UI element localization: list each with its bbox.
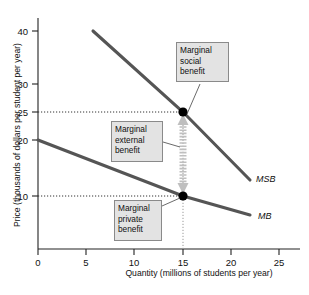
x-tick-label-10: 10 xyxy=(124,257,144,268)
callout-msb-line3: benefit xyxy=(180,66,225,77)
callout-marginal-social-benefit: Marginal social benefit xyxy=(176,42,229,82)
y-axis-title: Price (thousands of dollars per student … xyxy=(12,40,22,230)
callout-mpb-line3: benefit xyxy=(118,224,158,235)
callout-meb-line1: Marginal xyxy=(115,124,159,135)
chart-figure: 40 30 25 20 10 0 5 10 15 20 25 Price (th… xyxy=(0,0,309,295)
x-axis-title: Quantity (millions of students per year) xyxy=(94,268,304,278)
msb-callout-leader xyxy=(187,84,200,114)
x-tick-label-0: 0 xyxy=(28,257,48,268)
x-tick-label-15: 15 xyxy=(173,257,193,268)
mpb-point-marker xyxy=(178,191,187,200)
callout-msb-line2: social xyxy=(180,56,225,67)
callout-msb-line1: Marginal xyxy=(180,45,225,56)
callout-mpb-line2: private xyxy=(118,214,158,225)
callout-meb-line3: benefit xyxy=(115,145,159,156)
y-tick-label-40: 40 xyxy=(8,26,28,37)
x-tick-label-5: 5 xyxy=(76,257,96,268)
callout-marginal-external-benefit: Marginal external benefit xyxy=(111,121,163,162)
callout-meb-line2: external xyxy=(115,135,159,146)
msb-point-marker xyxy=(178,107,187,116)
meb-callout-leader xyxy=(163,142,180,147)
callout-marginal-private-benefit: Marginal private benefit xyxy=(114,200,162,241)
x-tick-label-25: 25 xyxy=(269,257,289,268)
mpb-callout-leader xyxy=(162,198,180,206)
curve-label-msb: MSB xyxy=(256,174,276,184)
x-axis-ticks xyxy=(38,249,279,255)
x-tick-label-20: 20 xyxy=(221,257,241,268)
callout-mpb-line1: Marginal xyxy=(118,203,158,214)
curve-label-mb: MB xyxy=(258,211,272,221)
y-axis-ticks xyxy=(32,31,38,196)
